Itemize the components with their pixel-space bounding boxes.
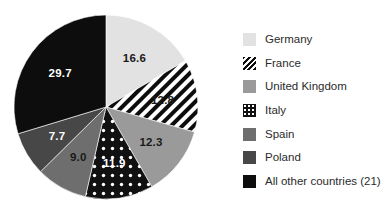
legend-item[interactable]: Germany <box>243 28 389 52</box>
pie-slice-value-label: 29.7 <box>49 67 72 79</box>
light-gray-swatch <box>243 33 256 46</box>
darker-gray-swatch <box>243 151 256 164</box>
pie-plot-area: 16.612.812.311.99.07.729.7 <box>0 0 212 214</box>
legend-item[interactable]: All other countries (21) <box>243 170 389 194</box>
pie-slice-value-label: 7.7 <box>49 130 66 142</box>
legend-item[interactable]: Poland <box>243 146 389 170</box>
legend-item-label: United Kingdom <box>265 80 347 93</box>
legend-item[interactable]: United Kingdom <box>243 75 389 99</box>
pie-slice-value-label: 12.3 <box>139 136 162 148</box>
legend-item[interactable]: Italy <box>243 99 389 123</box>
legend-item-label: Germany <box>265 33 312 46</box>
pie-slices <box>14 15 198 199</box>
legend-item[interactable]: Spain <box>243 122 389 146</box>
black-swatch <box>243 175 256 188</box>
legend-item[interactable]: France <box>243 52 389 76</box>
medium-gray-swatch <box>243 80 256 93</box>
legend-item-label: All other countries (21) <box>265 175 381 188</box>
pie-svg: 16.612.812.311.99.07.729.7 <box>0 0 212 214</box>
pie-slice-value-label: 11.9 <box>103 157 126 169</box>
diagonal-stripes-swatch <box>243 57 256 70</box>
legend-item-label: Poland <box>265 151 301 164</box>
legend-item-label: France <box>265 57 301 70</box>
pie-slice-value-label: 9.0 <box>70 151 87 163</box>
pie-slice-value-label: 16.6 <box>123 52 146 64</box>
chart-legend: GermanyFranceUnited KingdomItalySpainPol… <box>243 28 389 193</box>
legend-item-label: Italy <box>265 104 286 117</box>
pie-chart-figure: 16.612.812.311.99.07.729.7 GermanyFrance… <box>0 0 389 214</box>
pie-slice-value-label: 12.8 <box>151 94 175 106</box>
dark-gray-swatch <box>243 128 256 141</box>
dotted-dark-swatch <box>243 104 256 117</box>
legend-item-label: Spain <box>265 128 294 141</box>
